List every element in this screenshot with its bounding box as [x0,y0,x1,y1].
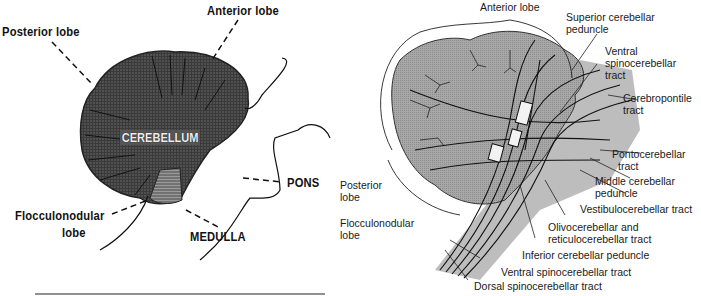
label-ventral-spinocerebellar-tract-bottom: Ventral spinocerebellar tract [501,267,631,278]
label-flocculonodular-lobe-1: Flocculonodular [15,209,105,223]
label-flocculonodular-lobe-2: lobe [62,226,86,240]
label-vestibulocerebellar-tract: Vestibulocerebellar tract [580,204,692,215]
right-cerebellar-tracts-diagram: Anterior lobe Superior cerebellar pedunc… [340,0,701,296]
label-posterior-lobe: Posterior lobe [2,25,80,39]
label-inferior-cerebellar-peduncle: Inferior cerebellar peduncle [522,250,649,261]
label-medulla: MEDULLA [190,230,246,244]
left-cerebellum-diagram: Anterior lobe Posterior lobe CEREBELLUM … [0,0,350,296]
label-pons: PONS [287,176,319,190]
label-superior-cerebellar-peduncle-1: Superior cerebellar [566,12,655,23]
label-olivocerebellar-2: reticulocerebellar tract [548,234,651,245]
label-cerebellum: CEREBELLUM [120,130,200,145]
label-dorsal-spinocerebellar-tract: Dorsal spinocerebellar tract [474,281,602,292]
cerebellum-sagittal-drawing [0,0,350,296]
label-flocculonodular-lobe-1: Flocculonodular [340,218,414,229]
label-anterior-lobe: Anterior lobe [207,4,279,18]
label-cerebropontile-tract-2: tract [623,105,643,116]
label-anterior-lobe: Anterior lobe [480,2,540,13]
label-ventral-spinocerebellar-tract-top-2: spinocerebellar [605,58,676,69]
label-superior-cerebellar-peduncle-2: peduncle [566,24,609,35]
label-pontocerebellar-tract-1: Pontocerebellar [612,149,686,160]
label-posterior-lobe-2: lobe [340,192,360,203]
label-pontocerebellar-tract-2: tract [618,161,638,172]
label-middle-cerebellar-peduncle-1: Middle cerebellar [595,176,675,187]
label-flocculonodular-lobe-2: lobe [340,230,360,241]
label-middle-cerebellar-peduncle-2: peduncle [595,188,638,199]
label-ventral-spinocerebellar-tract-top-1: Ventral [605,46,638,57]
label-olivocerebellar-1: Olivocerebellar and [548,222,638,233]
label-ventral-spinocerebellar-tract-top-3: tract [605,70,625,81]
label-cerebropontile-tract-1: Cerebropontile [623,93,692,104]
label-posterior-lobe-1: Posterior [340,180,382,191]
